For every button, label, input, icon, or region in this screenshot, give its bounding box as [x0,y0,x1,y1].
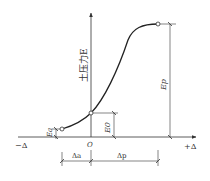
x-pos-label: +Δ [184,142,197,151]
ep-label: Ep [159,79,168,91]
at-rest-point [89,111,93,115]
earth-pressure-diagram: 土压力E −Δ +Δ O Ep E0 Ea Δa Δp [0,0,210,181]
ea-label: Ea [46,128,54,138]
origin-label: O [87,141,93,149]
delta-p-label: Δp [117,152,127,160]
active-point [60,127,64,131]
delta-a-label: Δa [72,152,81,160]
e0-label: E0 [103,122,112,134]
passive-point [156,22,160,26]
y-axis-label: 土压力E [78,48,89,82]
x-neg-label: −Δ [15,141,28,150]
